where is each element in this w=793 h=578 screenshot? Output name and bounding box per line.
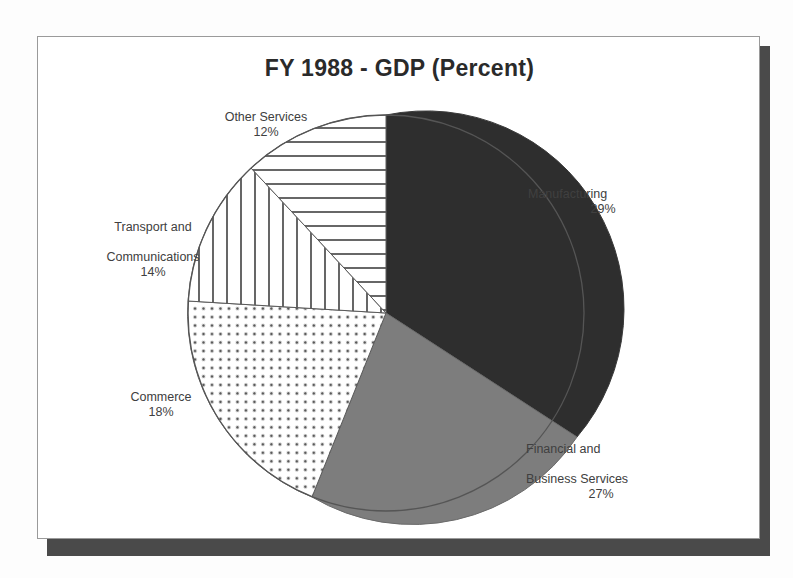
slice-label-commerce-pct: 18% [96,405,226,420]
slice-label-manufacturing-pct: 29% [528,202,678,217]
slice-label-other-services-pct: 12% [196,125,336,140]
slice-label-manufacturing: Manufacturing 29% [528,172,688,232]
slice-label-transport-line2: Communications [106,250,199,264]
slice-label-transport-pct: 14% [83,265,223,280]
slice-label-other-services: Other Services 12% [196,95,336,155]
slice-label-financial-business-services: Financial and Business Services 27% [526,427,701,517]
slice-label-transport-communications: Transport and Communications 14% [83,205,223,295]
slice-label-commerce: Commerce 18% [96,375,226,435]
slice-label-financial-line2: Business Services [526,472,628,486]
slice-label-manufacturing-name: Manufacturing [528,187,607,201]
slice-label-commerce-name: Commerce [130,390,191,404]
slice-label-other-services-name: Other Services [225,110,308,124]
chart-plate: FY 1988 - GDP (Percent) [37,36,760,539]
figure-canvas: FY 1988 - GDP (Percent) [0,0,793,578]
slice-label-financial-line1: Financial and [526,442,600,456]
slice-label-transport-line1: Transport and [114,220,191,234]
slice-label-financial-pct: 27% [526,487,676,502]
